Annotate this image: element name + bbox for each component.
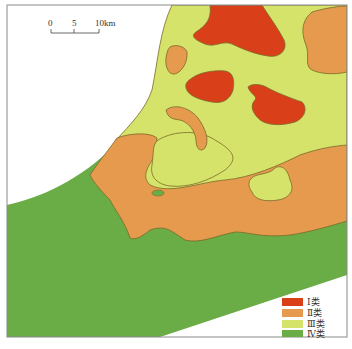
legend-label-class-iii: Ⅲ类 bbox=[307, 318, 325, 329]
legend-swatch-class-i bbox=[282, 298, 303, 306]
legend-label-class-ii: Ⅱ类 bbox=[307, 307, 322, 318]
legend-label-class-i: Ⅰ类 bbox=[307, 296, 320, 307]
scale-tick-5: 5 bbox=[72, 18, 77, 28]
legend: Ⅰ类 Ⅱ类 Ⅲ类 Ⅳ类 bbox=[282, 296, 325, 339]
region-class-iv-spot bbox=[152, 190, 164, 196]
scale-tick-0: 0 bbox=[48, 18, 53, 28]
scale-bar: 0 5 10km bbox=[48, 18, 116, 33]
legend-swatch-class-iv bbox=[282, 330, 303, 337]
classification-map: 0 5 10km Ⅰ类 Ⅱ类 Ⅲ类 Ⅳ类 bbox=[0, 0, 352, 349]
map-container: 0 5 10km Ⅰ类 Ⅱ类 Ⅲ类 Ⅳ类 bbox=[0, 0, 352, 349]
legend-swatch-class-ii bbox=[282, 309, 303, 317]
legend-swatch-class-iii bbox=[282, 320, 303, 328]
region-class-ii-patch-upper-right bbox=[303, 6, 347, 74]
scale-tick-10km: 10km bbox=[95, 18, 116, 28]
legend-label-class-iv: Ⅳ类 bbox=[307, 328, 325, 339]
map-regions bbox=[7, 5, 347, 337]
